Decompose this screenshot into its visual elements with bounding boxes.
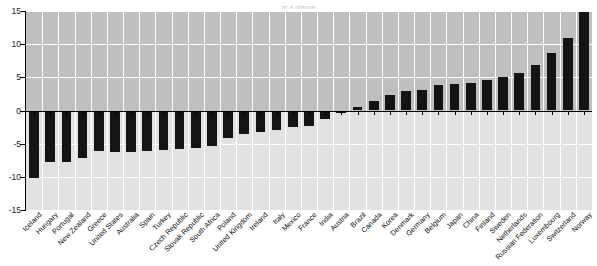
- x-axis-label-japan: Japan: [444, 211, 464, 231]
- bar: [466, 83, 476, 111]
- bar: [514, 73, 524, 110]
- bar: [126, 111, 136, 152]
- plot-area: [26, 11, 592, 210]
- y-tick-label: -15: [0, 206, 21, 214]
- bar: [401, 91, 411, 111]
- bar: [531, 65, 541, 111]
- chart-title-cropped: at a glance: [0, 0, 597, 9]
- bar: [78, 111, 88, 158]
- bar: [369, 101, 379, 111]
- bar: [191, 111, 201, 148]
- zero-baseline: [26, 111, 592, 112]
- bar: [110, 111, 120, 152]
- bar: [94, 111, 104, 151]
- y-tick-label: -10: [0, 173, 21, 181]
- bar: [385, 95, 395, 110]
- chart-figure: at a glance 151050-5-10-15 IcelandHungar…: [0, 0, 597, 266]
- y-tick-label: -5: [0, 140, 21, 148]
- bar: [29, 111, 39, 179]
- bar: [175, 111, 185, 149]
- bar: [62, 111, 72, 162]
- bar: [579, 12, 589, 110]
- bar: [482, 80, 492, 111]
- x-axis-category-labels: IcelandHungaryPortugalNew ZealandGreeceU…: [26, 211, 592, 266]
- bar: [207, 111, 217, 147]
- bar: [434, 85, 444, 111]
- y-tick-label: 5: [0, 73, 21, 81]
- bar: [450, 84, 460, 111]
- bar: [417, 90, 427, 111]
- bar: [498, 77, 508, 110]
- y-tick-label: 15: [0, 7, 21, 15]
- bar: [223, 111, 233, 139]
- bar: [547, 53, 557, 110]
- chart-title-text: at a glance: [281, 3, 315, 9]
- bar: [159, 111, 169, 150]
- bar: [142, 111, 152, 151]
- bar: [45, 111, 55, 163]
- y-tick-label: 0: [0, 107, 21, 115]
- bar: [563, 38, 573, 111]
- y-tick-label: 10: [0, 40, 21, 48]
